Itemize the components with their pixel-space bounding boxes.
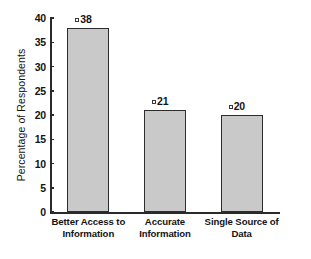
bar-value-label: 20 [229, 100, 245, 113]
y-axis-tick-label-wrap: 0 [0, 206, 46, 218]
y-axis-tick-label: 30 [4, 61, 46, 73]
bar-value-label: 38 [75, 13, 91, 26]
bar-chart: Percentage of Respondents 05101520253035… [0, 0, 311, 259]
y-axis-tick [50, 90, 54, 92]
bar-value-text: 21 [157, 95, 168, 107]
y-axis-tick [50, 42, 54, 44]
y-axis-tick-label-wrap: 35 [0, 36, 46, 48]
y-axis-tick [50, 187, 54, 189]
y-axis-tick [50, 139, 54, 141]
y-axis-tick-label: 10 [4, 158, 46, 170]
y-axis-tick [50, 211, 54, 213]
category-label-line: Single Source of [203, 216, 280, 228]
y-axis-tick-label: 20 [4, 109, 46, 121]
category-label-line: Information [127, 228, 204, 240]
y-axis-tick-label-wrap: 20 [0, 109, 46, 121]
category-label-line: Information [50, 228, 127, 240]
bar [144, 110, 186, 212]
y-axis-tick-label-wrap: 25 [0, 85, 46, 97]
y-axis-tick-label: 25 [4, 85, 46, 97]
x-axis-category-label: Better Access toInformation [50, 216, 127, 239]
y-axis-tick [50, 66, 54, 68]
y-axis-tick-label-wrap: 10 [0, 158, 46, 170]
x-axis-line [50, 212, 280, 214]
y-axis-tick-label-wrap: 15 [0, 133, 46, 145]
bar-value-text: 20 [234, 100, 245, 112]
y-axis-tick-label-wrap: 40 [0, 12, 46, 24]
y-axis-tick-label: 15 [4, 133, 46, 145]
category-label-line: Data [203, 228, 280, 240]
y-axis-tick [50, 163, 54, 165]
y-axis-tick-label: 35 [4, 36, 46, 48]
x-axis-category-label: Single Source ofData [203, 216, 280, 239]
y-axis-tick [50, 17, 54, 19]
y-axis-tick-label: 0 [4, 206, 46, 218]
x-axis-category-label: AccurateInformation [127, 216, 204, 239]
value-marker-icon [229, 105, 233, 109]
y-axis-tick-label-wrap: 5 [0, 182, 46, 194]
y-axis-tick [50, 114, 54, 116]
bar [221, 115, 263, 212]
value-marker-icon [75, 18, 79, 22]
value-marker-icon [152, 100, 156, 104]
y-axis-tick-label: 5 [4, 182, 46, 194]
category-label-line: Accurate [127, 216, 204, 228]
bar-value-label: 21 [152, 95, 168, 108]
category-label-line: Better Access to [50, 216, 127, 228]
bar-value-text: 38 [80, 13, 91, 25]
bar [67, 28, 109, 212]
y-axis-tick-label: 40 [4, 12, 46, 24]
y-axis-tick-label-wrap: 30 [0, 61, 46, 73]
